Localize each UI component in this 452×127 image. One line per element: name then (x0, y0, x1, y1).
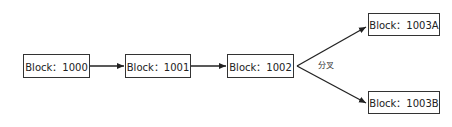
block-1002: Block：1002 (227, 54, 294, 78)
block-1000: Block：1000 (23, 54, 90, 78)
block-1001: Block：1001 (125, 54, 191, 78)
block-1003b: Block：1003B (368, 91, 440, 114)
block-1003a: Block：1003A (368, 13, 440, 36)
arrow-1002-1003b (297, 66, 366, 103)
fork-label: 分叉 (318, 59, 334, 70)
